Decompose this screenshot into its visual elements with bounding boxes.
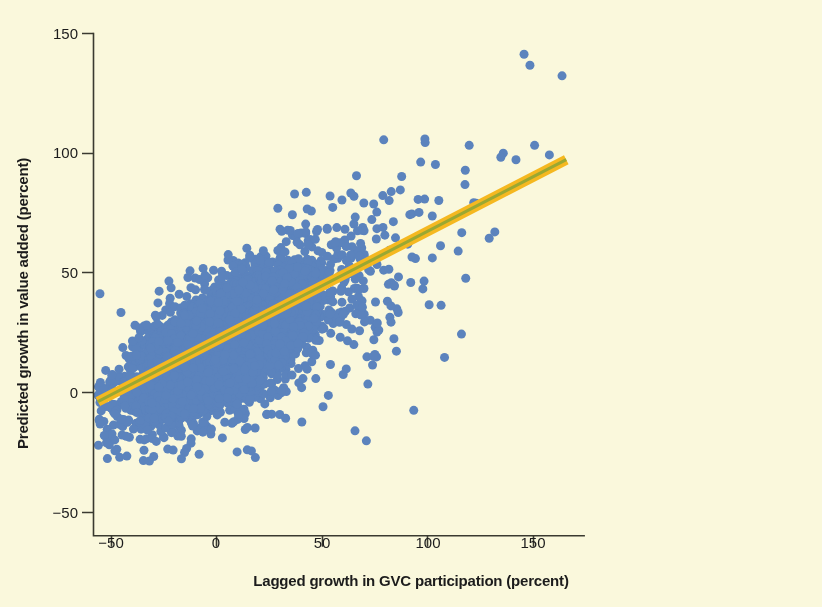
x-tick-label-0: 0 — [212, 534, 220, 551]
x-tick-label-50: 50 — [314, 534, 331, 551]
y-axis-title: Predicted growth in value added (percent… — [8, 0, 38, 607]
chart-figure: 150 100 50 0 −50 −50 0 50 100 150 Lagged… — [0, 0, 822, 607]
x-tick-label-100: 100 — [415, 534, 440, 551]
x-tick-label-minus-50: −50 — [98, 534, 123, 551]
x-tick-label-150: 150 — [520, 534, 545, 551]
x-axis-title: Lagged growth in GVC participation (perc… — [0, 572, 822, 589]
scatter-plot-canvas — [0, 0, 822, 607]
